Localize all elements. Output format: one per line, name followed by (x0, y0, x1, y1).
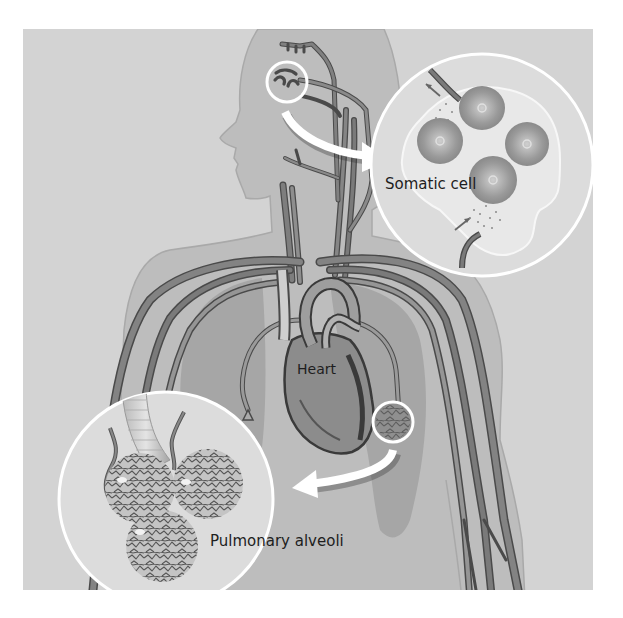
cell-right (505, 122, 549, 166)
cell-left (417, 118, 463, 164)
lung-detail-marker (373, 402, 413, 442)
circulation-diagram: Heart (0, 0, 623, 618)
alveolus-bottom (126, 510, 198, 582)
pulmonary-alveoli-label: Pulmonary alveoli (210, 532, 344, 550)
somatic-cell-magnifier (371, 54, 593, 276)
somatic-cell-label: Somatic cell (385, 175, 476, 193)
cell-top (459, 86, 505, 130)
heart-label: Heart (297, 361, 336, 377)
